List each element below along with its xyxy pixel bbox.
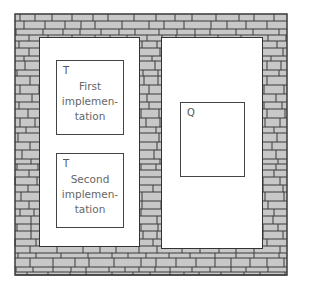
box-tag: T: [63, 65, 69, 76]
box-label: Second implemen- tation: [57, 172, 123, 217]
q-box: Q: [180, 102, 245, 177]
box-label: First implemen- tation: [57, 79, 123, 124]
box-tag: Q: [187, 107, 195, 118]
first-implementation-box: T First implemen- tation: [56, 60, 124, 135]
second-implementation-box: T Second implemen- tation: [56, 153, 124, 228]
box-tag: T: [63, 158, 69, 169]
